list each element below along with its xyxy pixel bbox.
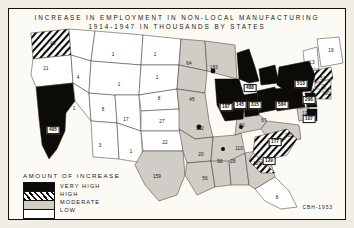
city-dot-louisville (239, 125, 243, 129)
state-indiana (243, 93, 259, 117)
state-illinois (215, 79, 245, 121)
legend-heading: AMOUNT OF INCREASE (23, 172, 120, 179)
state-maine (317, 37, 343, 67)
state-arizona (91, 121, 119, 159)
map-credit: CBH-1953 (302, 204, 333, 210)
legend-label-low: LOW (60, 206, 100, 214)
state-michigan-lp (237, 49, 259, 83)
state-wisconsin (205, 41, 237, 79)
legend-label-moderate: MODERATE (60, 198, 100, 206)
state-washington (31, 29, 71, 59)
state-louisiana (185, 161, 215, 195)
legend-swatch-moderate (24, 201, 54, 210)
map-figure: INCREASE IN EMPLOYMENT IN NON-LOCAL MANU… (0, 0, 354, 228)
legend-labels: VERY HIGH HIGH MODERATE LOW (60, 182, 100, 214)
legend-swatch-low (24, 210, 54, 218)
map-canvas: INCREASE IN EMPLOYMENT IN NON-LOCAL MANU… (9, 9, 345, 219)
map-legend: AMOUNT OF INCREASE VERY HIGH HIGH MODERA… (23, 172, 120, 219)
city-dot-memphis (221, 147, 225, 151)
legend-swatch-high (24, 192, 54, 201)
state-utah (89, 93, 117, 123)
legend-swatches (23, 182, 55, 219)
legend-label-very-high: VERY HIGH (60, 182, 100, 190)
state-kansas (141, 109, 181, 131)
state-new-jersey (305, 93, 317, 107)
city-dot-twin-cities (211, 69, 216, 74)
state-california (36, 83, 75, 159)
state-new-york (277, 61, 315, 93)
state-north-dakota (141, 35, 181, 65)
legend-swatch-very-high (24, 183, 54, 192)
state-north-carolina (253, 129, 297, 161)
state-oregon (31, 55, 73, 87)
state-montana (91, 31, 143, 65)
state-wyoming (89, 61, 141, 95)
city-dot-st-louis (197, 125, 202, 130)
state-oklahoma (141, 131, 183, 151)
map-frame: INCREASE IN EMPLOYMENT IN NON-LOCAL MANU… (8, 8, 346, 220)
state-michigan-e (259, 65, 279, 85)
state-texas (135, 151, 185, 201)
state-delaware (307, 109, 317, 121)
legend-label-high: HIGH (60, 190, 100, 198)
